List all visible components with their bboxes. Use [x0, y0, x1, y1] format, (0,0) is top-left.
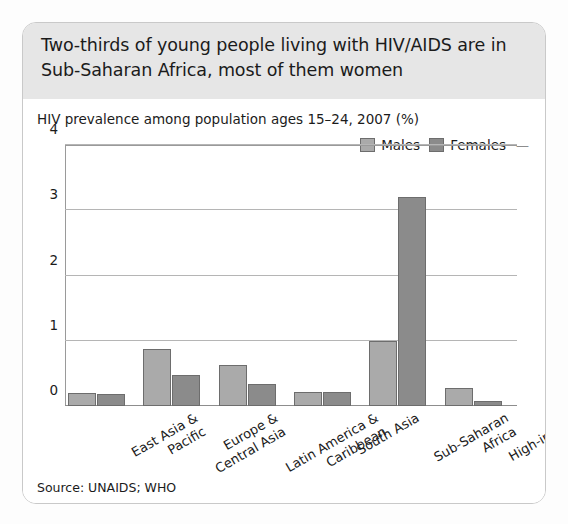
bar-males	[68, 393, 96, 406]
x-axis-labels: East Asia &PacificEurope &Central AsiaLa…	[65, 410, 517, 482]
y-tick-label: 2	[49, 251, 58, 267]
bar-group	[216, 145, 291, 406]
bar-females	[474, 401, 502, 406]
bar-males	[369, 341, 397, 406]
bar-group	[65, 145, 140, 406]
bars-layer	[65, 145, 517, 406]
chart-subtitle: HIV prevalence among population ages 15–…	[37, 111, 419, 127]
bar-males	[143, 349, 171, 406]
x-axis-label: Sub-SaharanAfrica	[431, 410, 519, 479]
screenshot-page: Two-thirds of young people living with H…	[0, 0, 568, 524]
bar-females	[97, 394, 125, 406]
headline-band: Two-thirds of young people living with H…	[23, 23, 545, 99]
chart-panel: HIV prevalence among population ages 15–…	[23, 99, 545, 504]
x-axis-label: East Asia &Pacific	[129, 410, 209, 475]
page-title: Two-thirds of young people living with H…	[41, 33, 527, 83]
bar-females	[398, 197, 426, 406]
bar-males	[219, 365, 247, 406]
bar-males	[445, 388, 473, 406]
bar-group	[291, 145, 366, 406]
y-tick-label: 3	[49, 186, 58, 202]
source-note: Source: UNAIDS; WHO	[37, 480, 176, 495]
bar-group	[442, 145, 517, 406]
y-tick-label: 1	[49, 316, 58, 332]
bar-group	[140, 145, 215, 406]
bar-females	[172, 375, 200, 406]
bar-females	[323, 392, 351, 406]
x-axis-label: Europe &Central Asia	[205, 410, 289, 477]
y-tick-label: 0	[49, 382, 58, 398]
infographic-card: Two-thirds of young people living with H…	[22, 22, 546, 504]
bar-group	[366, 145, 441, 406]
y-tick-label: 4	[49, 121, 58, 137]
plot-area: 01234	[65, 145, 517, 406]
legend-trailing-rule: —	[516, 138, 529, 153]
bar-males	[294, 392, 322, 406]
bar-females	[248, 384, 276, 406]
